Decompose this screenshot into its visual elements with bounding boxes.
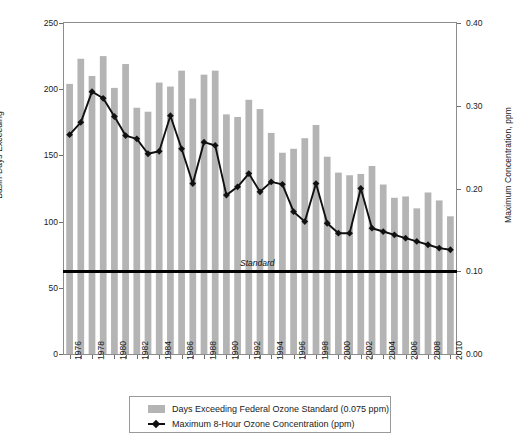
- bar-2008: [425, 192, 432, 354]
- left-tick-mark: [59, 89, 63, 90]
- left-tick-label: 0: [53, 354, 58, 364]
- bar-2005: [391, 198, 398, 354]
- right-axis-title: Maximum Concentration, ppm: [503, 107, 513, 223]
- x-tick-mark: [260, 355, 261, 359]
- bar-2006: [402, 196, 409, 354]
- bar-2009: [436, 200, 443, 354]
- left-tick-mark: [59, 354, 63, 355]
- bar-1987: [189, 98, 196, 354]
- x-tick-mark: [294, 355, 295, 359]
- legend-entry-bars: Days Exceeding Federal Ozone Standard (0…: [130, 401, 390, 416]
- right-tick-mark: [457, 189, 461, 190]
- bar-1976: [66, 84, 73, 354]
- x-tick-mark: [450, 355, 451, 359]
- x-tick-mark: [92, 355, 93, 359]
- bar-1999: [324, 157, 331, 354]
- bar-1997: [301, 138, 308, 354]
- bar-1991: [234, 117, 241, 354]
- x-tick-mark: [215, 355, 216, 359]
- x-tick-mark: [148, 355, 149, 359]
- x-tick-mark: [271, 355, 272, 359]
- x-tick-mark: [226, 355, 227, 359]
- x-tick-mark: [428, 355, 429, 359]
- plot-inner: [64, 23, 456, 354]
- x-tick-mark: [417, 355, 418, 359]
- x-tick-mark: [282, 355, 283, 359]
- plot-area: [63, 22, 457, 355]
- legend: Days Exceeding Federal Ozone Standard (0…: [129, 396, 391, 433]
- bar-1986: [178, 71, 185, 354]
- right-tick-label: 0.00: [466, 354, 483, 364]
- x-tick-label-2010: 2010: [454, 341, 464, 360]
- x-tick-mark: [114, 355, 115, 359]
- left-tick-label: 50: [49, 288, 58, 298]
- x-tick-mark: [126, 355, 127, 359]
- x-tick-mark: [327, 355, 328, 359]
- legend-label-bars: Days Exceeding Federal Ozone Standard (0…: [172, 404, 389, 414]
- x-tick-mark: [305, 355, 306, 359]
- bar-1981: [122, 64, 129, 354]
- bar-2000: [335, 173, 342, 354]
- bar-1977: [77, 59, 84, 354]
- bar-1982: [133, 108, 140, 354]
- bar-2001: [346, 175, 353, 354]
- x-tick-mark: [238, 355, 239, 359]
- x-tick-mark: [170, 355, 171, 359]
- x-tick-mark: [81, 355, 82, 359]
- bar-1989: [212, 71, 219, 354]
- line-diamond-swatch-icon: [148, 419, 165, 428]
- bar-1994: [268, 133, 275, 354]
- bar-1992: [245, 100, 252, 354]
- left-axis-title: Basin-Days Exceeding: [0, 111, 4, 199]
- bar-1993: [257, 109, 264, 354]
- right-tick-label: 0.30: [466, 106, 483, 116]
- right-tick-label: 0.40: [466, 23, 483, 33]
- x-tick-mark: [204, 355, 205, 359]
- x-tick-mark: [103, 355, 104, 359]
- right-tick-label: 0.10: [466, 271, 483, 281]
- legend-entry-line: Maximum 8-Hour Ozone Concentration (ppm): [130, 416, 390, 431]
- standard-label: Standard: [240, 258, 275, 268]
- x-tick-mark: [350, 355, 351, 359]
- right-tick-mark: [457, 23, 461, 24]
- x-tick-mark: [394, 355, 395, 359]
- left-tick-mark: [59, 155, 63, 156]
- x-tick-mark: [182, 355, 183, 359]
- right-tick-mark: [457, 106, 461, 107]
- bar-1980: [111, 88, 118, 354]
- left-tick-label: 250: [44, 23, 58, 33]
- legend-label-line: Maximum 8-Hour Ozone Concentration (ppm): [172, 419, 355, 429]
- standard-threshold-line: [63, 270, 457, 273]
- x-tick-mark: [316, 355, 317, 359]
- bar-2010: [447, 216, 454, 354]
- left-tick-mark: [59, 288, 63, 289]
- left-tick-label: 200: [44, 89, 58, 99]
- ozone-trend-chart: Standard Basin-Days Exceeding Maximum Co…: [0, 0, 520, 445]
- bar-1983: [145, 112, 152, 354]
- x-tick-mark: [406, 355, 407, 359]
- bar-2007: [413, 208, 420, 354]
- x-tick-mark: [70, 355, 71, 359]
- bar-1984: [156, 83, 163, 354]
- left-tick-label: 100: [44, 222, 58, 232]
- right-tick-label: 0.20: [466, 189, 483, 199]
- bar-1990: [223, 114, 230, 354]
- x-tick-mark: [159, 355, 160, 359]
- left-tick-mark: [59, 222, 63, 223]
- x-tick-mark: [137, 355, 138, 359]
- bar-1978: [89, 76, 96, 354]
- x-tick-mark: [361, 355, 362, 359]
- bar-1998: [313, 125, 320, 354]
- bar-1988: [201, 75, 208, 354]
- bar-1985: [167, 87, 174, 354]
- left-tick-mark: [59, 23, 63, 24]
- chart-canvas: [64, 23, 456, 354]
- x-tick-mark: [193, 355, 194, 359]
- bar-1996: [290, 149, 297, 354]
- x-tick-mark: [338, 355, 339, 359]
- left-tick-label: 150: [44, 155, 58, 165]
- x-tick-mark: [249, 355, 250, 359]
- bar-2003: [369, 166, 376, 354]
- x-tick-mark: [372, 355, 373, 359]
- x-tick-mark: [383, 355, 384, 359]
